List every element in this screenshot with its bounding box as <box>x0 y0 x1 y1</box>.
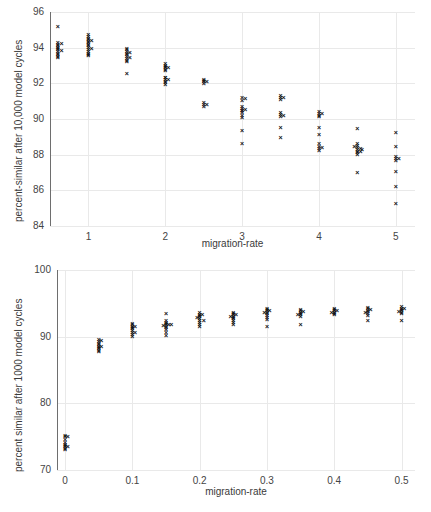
gridline-horizontal <box>50 190 415 191</box>
gridline-vertical <box>88 12 89 226</box>
data-point-marker <box>124 54 129 59</box>
data-point-marker <box>278 95 283 100</box>
y-axis-line <box>50 12 51 226</box>
data-point-marker <box>298 310 303 315</box>
data-point-marker <box>59 41 64 46</box>
y-axis-tick-label: 90 <box>0 332 51 342</box>
y-axis-tick-label: 84 <box>0 221 44 231</box>
x-axis-tick-label: 0.2 <box>193 476 207 486</box>
data-point-marker <box>164 322 169 327</box>
gridline-horizontal <box>50 12 415 13</box>
gridline-horizontal <box>50 48 415 49</box>
gridline-vertical <box>200 270 201 470</box>
data-point-marker <box>127 55 132 60</box>
data-point-marker <box>164 324 169 329</box>
gridline-horizontal <box>50 83 415 84</box>
y-axis-title: percent-similar after 10,000 model cycle… <box>13 40 24 222</box>
data-point-marker <box>278 112 283 117</box>
data-point-marker <box>231 312 236 317</box>
gridline-horizontal <box>57 337 415 338</box>
data-point-marker <box>201 104 206 109</box>
data-point-marker <box>358 146 363 151</box>
data-point-marker <box>278 110 283 115</box>
data-point-marker <box>365 306 370 311</box>
data-point-marker <box>298 322 303 327</box>
gridline-horizontal <box>50 155 415 156</box>
data-point-marker <box>96 348 101 353</box>
data-point-marker <box>231 314 236 319</box>
data-point-marker <box>96 349 101 354</box>
data-point-marker <box>99 338 104 343</box>
data-point-marker <box>295 312 300 317</box>
x-axis-tick-label: 0.3 <box>260 476 274 486</box>
x-axis-tick-label: 0 <box>62 476 68 486</box>
data-point-marker <box>96 339 101 344</box>
data-point-marker <box>231 316 236 321</box>
data-point-marker <box>231 310 236 315</box>
data-point-marker <box>355 170 360 175</box>
y-axis-title: percent similar after 1000 model cycles <box>13 299 24 472</box>
data-point-marker <box>320 145 325 150</box>
data-point-marker <box>55 52 60 57</box>
data-point-marker <box>201 318 206 323</box>
data-point-marker <box>164 327 169 332</box>
data-point-marker <box>278 93 283 98</box>
gridline-vertical <box>319 12 320 226</box>
gridline-vertical <box>396 12 397 226</box>
data-point-marker <box>355 145 360 150</box>
x-axis-tick-label: 1 <box>86 232 92 242</box>
chart-panel-bottom: 70809010000.10.20.30.40.5migration-ratep… <box>0 256 431 512</box>
data-point-marker <box>99 344 104 349</box>
data-point-marker <box>298 311 303 316</box>
data-point-marker <box>127 50 132 55</box>
data-point-marker <box>281 95 286 100</box>
data-point-marker <box>281 113 286 118</box>
x-axis-tick-label: 0.1 <box>125 476 139 486</box>
data-point-marker <box>298 314 303 319</box>
data-point-marker <box>55 40 60 45</box>
x-axis-tick-label: 5 <box>393 232 399 242</box>
gridline-vertical <box>267 270 268 470</box>
data-point-marker <box>365 311 370 316</box>
data-point-marker <box>96 345 101 350</box>
data-point-marker <box>55 24 60 29</box>
data-point-marker <box>363 310 368 315</box>
data-point-marker <box>164 320 169 325</box>
data-point-marker <box>164 330 169 335</box>
x-axis-line <box>57 470 415 471</box>
x-axis-title: migration-rate <box>205 486 267 497</box>
data-point-marker <box>124 59 129 64</box>
data-point-marker <box>169 322 174 327</box>
data-point-marker <box>166 322 171 327</box>
y-axis-tick-label: 70 <box>0 465 51 475</box>
data-point-marker <box>355 126 360 131</box>
data-point-marker <box>55 42 60 47</box>
data-point-marker <box>278 97 283 102</box>
data-point-marker <box>278 135 283 140</box>
x-axis-tick-label: 2 <box>162 232 168 242</box>
data-point-marker <box>55 49 60 54</box>
data-point-marker <box>355 147 360 152</box>
y-axis-tick-label: 96 <box>0 7 44 17</box>
y-axis-tick-label: 100 <box>0 265 51 275</box>
data-point-marker <box>365 318 370 323</box>
data-point-marker <box>231 315 236 320</box>
scatter-plot-figure: 8486889092949612345migration-ratepercent… <box>0 0 431 512</box>
data-point-marker <box>201 77 206 82</box>
data-point-marker <box>355 141 360 146</box>
data-point-marker <box>396 156 401 161</box>
data-point-marker <box>243 96 248 101</box>
data-point-marker <box>164 311 169 316</box>
gridline-vertical <box>402 270 403 470</box>
x-axis-tick-label: 4 <box>316 232 322 242</box>
gridline-vertical <box>242 12 243 226</box>
data-point-marker <box>96 346 101 351</box>
data-point-marker <box>352 144 357 149</box>
plot-area-bottom <box>57 270 415 470</box>
data-point-marker <box>368 307 373 312</box>
data-point-marker <box>298 312 303 317</box>
data-point-marker <box>55 55 60 60</box>
plot-area-top <box>50 12 415 226</box>
data-point-marker <box>164 321 169 326</box>
gridline-vertical <box>132 270 133 470</box>
